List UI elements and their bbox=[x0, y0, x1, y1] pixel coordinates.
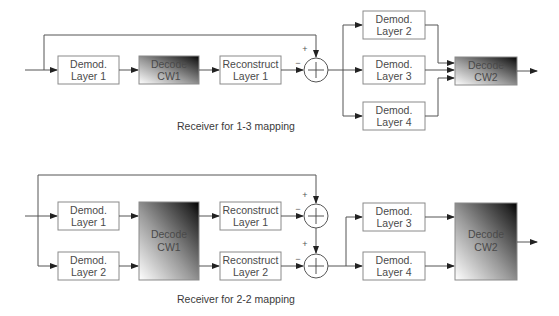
block-label: Demod. bbox=[376, 104, 413, 116]
block-label: Layer 1 bbox=[233, 216, 268, 228]
reconstruct-layer-1-block: Reconstruct Layer 1 bbox=[220, 202, 281, 230]
demod-layer-1-block: Demod. Layer 1 bbox=[58, 56, 119, 84]
block-label: Demod. bbox=[376, 13, 413, 25]
block-label: Layer 1 bbox=[71, 216, 106, 228]
demod-layer-2-block: Demod. Layer 2 bbox=[58, 252, 119, 280]
block-label: Layer 2 bbox=[71, 266, 106, 278]
block-label: Layer 4 bbox=[376, 116, 411, 128]
diagram-2-2-mapping: Demod. Layer 1 Demod. Layer 2 Decode CW1… bbox=[25, 175, 537, 305]
block-label: CW1 bbox=[157, 70, 180, 82]
merge-arrow bbox=[425, 78, 454, 116]
block-label: Layer 2 bbox=[376, 25, 411, 37]
minus-sign: − bbox=[295, 254, 300, 264]
merge-arrow bbox=[425, 25, 454, 63]
summing-junction: + − bbox=[295, 44, 328, 82]
block-label: Demod. bbox=[376, 58, 413, 70]
block-label: Layer 3 bbox=[376, 70, 411, 82]
plus-sign: + bbox=[302, 239, 307, 249]
block-label: Demod. bbox=[70, 58, 107, 70]
block-label: CW2 bbox=[474, 71, 497, 83]
diagram-1-3-mapping: Demod. Layer 1 Decode CW1 Reconstruct La… bbox=[25, 11, 537, 132]
block-label: Demod. bbox=[70, 254, 107, 266]
demod-layer-3-block: Demod. Layer 3 bbox=[363, 203, 425, 231]
minus-sign: − bbox=[295, 204, 300, 214]
block-label: Layer 1 bbox=[71, 70, 106, 82]
branch-arrow bbox=[343, 70, 362, 116]
block-label: Decode bbox=[468, 59, 504, 71]
summing-junction-2: + − bbox=[295, 239, 328, 278]
block-label: Demod. bbox=[70, 204, 107, 216]
block-label: Reconstruct bbox=[222, 254, 278, 266]
plus-sign: + bbox=[302, 44, 307, 54]
block-label: Demod. bbox=[376, 205, 413, 217]
demod-layer-3-block: Demod. Layer 3 bbox=[363, 56, 425, 84]
input-branch bbox=[38, 216, 57, 266]
branch-arrow bbox=[346, 217, 362, 266]
block-label: Layer 3 bbox=[376, 217, 411, 229]
receiver-diagrams: Demod. Layer 1 Decode CW1 Reconstruct La… bbox=[0, 0, 559, 316]
minus-sign: − bbox=[295, 58, 300, 68]
reconstruct-layer-2-block: Reconstruct Layer 2 bbox=[220, 252, 281, 280]
block-label: Reconstruct bbox=[222, 204, 278, 216]
demod-layer-4-block: Demod. Layer 4 bbox=[363, 252, 425, 280]
block-label: Decode bbox=[151, 58, 187, 70]
block-label: CW1 bbox=[157, 241, 180, 253]
block-label: Demod. bbox=[376, 254, 413, 266]
demod-layer-4-block: Demod. Layer 4 bbox=[363, 102, 425, 130]
block-label: Layer 1 bbox=[233, 70, 268, 82]
diagram-caption: Receiver for 1-3 mapping bbox=[177, 120, 295, 132]
decode-cw2-block: Decode CW2 bbox=[455, 203, 517, 280]
plus-sign: + bbox=[302, 190, 307, 200]
block-label: Layer 4 bbox=[376, 266, 411, 278]
block-label: Decode bbox=[468, 228, 504, 240]
branch-arrow bbox=[343, 25, 362, 70]
demod-layer-2-block: Demod. Layer 2 bbox=[363, 11, 425, 39]
block-label: Reconstruct bbox=[222, 58, 278, 70]
reconstruct-layer-1-block: Reconstruct Layer 1 bbox=[220, 56, 281, 84]
diagram-caption: Receiver for 2-2 mapping bbox=[177, 293, 295, 305]
block-label: Layer 2 bbox=[233, 266, 268, 278]
demod-layer-1-block: Demod. Layer 1 bbox=[58, 202, 119, 230]
decode-cw1-block: Decode CW1 bbox=[139, 202, 199, 280]
decode-cw1-block: Decode CW1 bbox=[139, 56, 199, 84]
summing-junction-1: + − bbox=[295, 190, 328, 228]
block-label: CW2 bbox=[474, 241, 497, 253]
block-label: Decode bbox=[151, 228, 187, 240]
decode-cw2-block: Decode CW2 bbox=[455, 57, 517, 85]
